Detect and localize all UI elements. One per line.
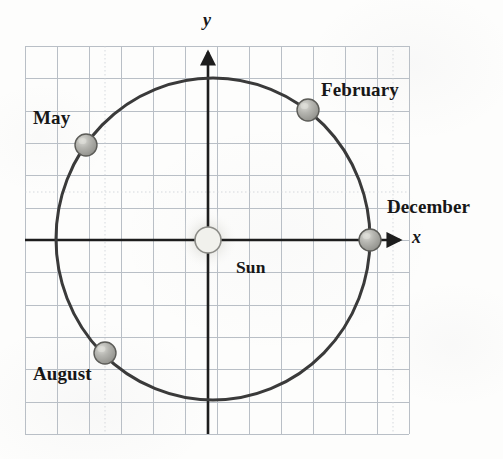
sun-marker [195,227,221,253]
label-december: December [387,196,470,218]
marker-february [297,99,319,121]
marker-december [359,229,381,251]
orbit-diagram-canvas [0,0,503,459]
label-sun: Sun [236,257,266,278]
label-august: August [33,363,92,385]
label-y-axis: y [203,10,211,31]
label-february: February [321,79,399,101]
marker-may [75,134,97,156]
label-x-axis: x [412,227,421,248]
label-may: May [33,107,70,129]
figure-page: February May December August Sun x y [0,0,503,459]
marker-august [94,342,116,364]
